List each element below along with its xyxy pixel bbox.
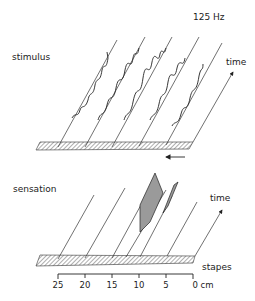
sensation-time-label: time xyxy=(210,193,230,203)
stimulus-time-lines xyxy=(58,37,233,147)
stimulus-time-label: time xyxy=(226,57,246,67)
sensation-panel xyxy=(36,173,222,279)
sensation-peak-main xyxy=(140,173,163,232)
scale-tick-20: 20 xyxy=(80,280,91,290)
sensation-base-strip xyxy=(36,255,195,266)
sensation-peak-secondary xyxy=(163,182,178,213)
sensation-label: sensation xyxy=(13,184,56,194)
stapes-label: stapes xyxy=(202,262,232,272)
stimulus-label: stimulus xyxy=(12,52,50,62)
diagram-canvas xyxy=(0,0,255,301)
scale-tick-25: 25 xyxy=(53,280,64,290)
stimulus-base-strip xyxy=(36,142,193,150)
scale-tick-5: 5 xyxy=(163,280,168,290)
stimulus-panel xyxy=(36,37,233,157)
scale-tick-0: 0 cm xyxy=(192,280,213,290)
cm-scale-bar xyxy=(58,274,193,279)
stimulus-waveforms xyxy=(72,48,203,126)
scale-tick-15: 15 xyxy=(107,280,118,290)
frequency-label: 125 Hz xyxy=(193,12,225,22)
scale-tick-10: 10 xyxy=(134,280,145,290)
